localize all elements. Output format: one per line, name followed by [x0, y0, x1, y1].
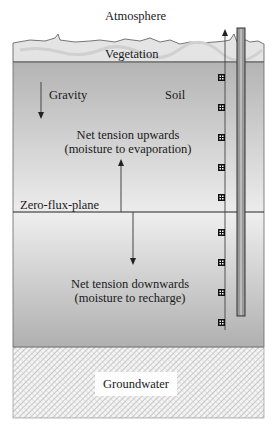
atmosphere-label: Atmosphere [105, 9, 166, 23]
vegetation-label: Vegetation [105, 47, 158, 61]
downward-tension-label-line1: Net tension downwards [50, 277, 210, 291]
sensor-icon [218, 134, 225, 141]
upward-tension-label-line2: (moisture to evaporation) [48, 142, 208, 156]
access-tube [237, 28, 245, 316]
zero-flux-plane-label: Zero-flux-plane [20, 198, 99, 212]
sensor-icon [218, 194, 225, 201]
sensor-icon [218, 319, 225, 326]
groundwater-label: Groundwater [95, 377, 177, 391]
sensor-icon [218, 164, 225, 171]
sensor-icon [218, 104, 225, 111]
diagram-canvas [0, 0, 273, 428]
sensor-icon [218, 229, 225, 236]
sensor-icon [218, 74, 225, 81]
gravity-label: Gravity [49, 88, 87, 102]
soil-label: Soil [165, 88, 185, 102]
sensor-icon [218, 289, 225, 296]
upward-tension-label-line1: Net tension upwards [58, 128, 198, 142]
sensor-icon [218, 259, 225, 266]
downward-tension-label-line2: (moisture to recharge) [50, 291, 210, 305]
